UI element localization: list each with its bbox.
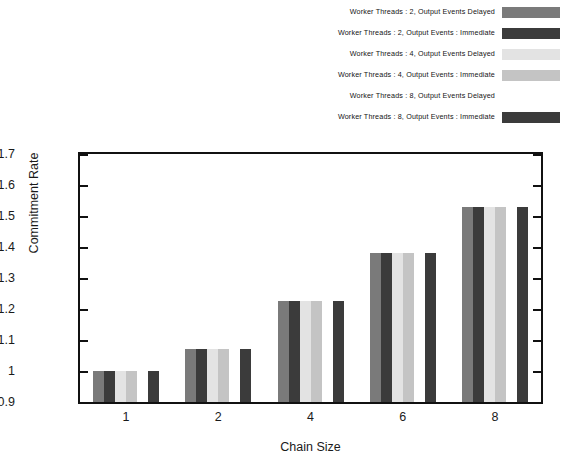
chart-legend: Worker Threads : 2, Output Events Delaye…	[322, 2, 560, 128]
y-axis-tick	[533, 247, 541, 249]
x-axis-tick-label: 4	[291, 410, 331, 424]
y-axis-tick	[533, 216, 541, 218]
y-axis-tick-label: 1.3	[0, 271, 15, 285]
bar	[403, 253, 414, 402]
y-axis-tick	[80, 340, 88, 342]
legend-swatch	[502, 28, 560, 39]
bar	[126, 371, 137, 402]
y-axis-tick	[533, 340, 541, 342]
y-axis-tick-label: 1.7	[0, 147, 15, 161]
y-axis-tick	[533, 154, 541, 156]
y-axis-tick-label: 1.1	[0, 333, 15, 347]
bar	[414, 253, 425, 402]
bar	[104, 371, 115, 402]
bar	[484, 207, 495, 402]
y-axis-tick	[533, 309, 541, 311]
y-axis-tick	[533, 371, 541, 373]
bar	[462, 207, 473, 402]
y-axis-tick	[80, 278, 88, 280]
legend-swatch	[502, 112, 560, 123]
bar	[311, 301, 322, 402]
x-axis-tick-label: 2	[198, 410, 238, 424]
bar-group	[93, 154, 159, 402]
y-axis-tick	[80, 247, 88, 249]
y-axis-tick	[80, 185, 88, 187]
bar-group	[462, 154, 528, 402]
bar	[506, 207, 517, 402]
y-axis-tick	[80, 154, 88, 156]
bar-group	[370, 154, 436, 402]
bar	[300, 301, 311, 402]
legend-label: Worker Threads : 2, Output Events : Imme…	[338, 29, 502, 36]
bar	[370, 253, 381, 402]
bar	[333, 301, 344, 402]
plot-inner	[80, 154, 541, 402]
bar	[473, 207, 484, 402]
x-axis-tick-label: 1	[106, 410, 146, 424]
bar	[148, 371, 159, 402]
bar	[185, 349, 196, 402]
y-axis-tick	[80, 216, 88, 218]
bar-chart-figure: Worker Threads : 2, Output Events Delaye…	[0, 0, 564, 468]
y-axis-tick	[533, 185, 541, 187]
bar	[115, 371, 126, 402]
legend-label: Worker Threads : 2, Output Events Delaye…	[350, 8, 502, 15]
legend-item: Worker Threads : 4, Output Events : Imme…	[322, 65, 560, 85]
x-axis-title: Chain Size	[78, 440, 543, 454]
y-axis-tick-label: 1.4	[0, 240, 15, 254]
bar	[93, 371, 104, 402]
bar	[425, 253, 436, 402]
legend-item: Worker Threads : 2, Output Events Delaye…	[322, 2, 560, 22]
bar	[278, 301, 289, 402]
bar	[229, 349, 240, 402]
y-axis-tick-label: 0.9	[0, 395, 15, 409]
legend-item: Worker Threads : 2, Output Events : Imme…	[322, 23, 560, 43]
legend-swatch	[502, 49, 560, 60]
bar	[207, 349, 218, 402]
bar	[392, 253, 403, 402]
legend-label: Worker Threads : 8, Output Events Delaye…	[350, 92, 502, 99]
bar	[218, 349, 229, 402]
bar	[495, 207, 506, 402]
bar-group	[278, 154, 344, 402]
legend-label: Worker Threads : 8, Output Events : Imme…	[338, 113, 502, 120]
legend-item: Worker Threads : 8, Output Events Delaye…	[322, 86, 560, 106]
y-axis-tick	[80, 402, 88, 404]
y-axis-title: Commitment Rate	[27, 113, 41, 293]
bar	[240, 349, 251, 402]
bar-group	[185, 154, 251, 402]
y-axis-tick-label: 1.6	[0, 178, 15, 192]
legend-swatch	[502, 91, 560, 102]
y-axis-tick-label: 1.2	[0, 302, 15, 316]
bar	[137, 371, 148, 402]
legend-swatch	[502, 70, 560, 81]
bar	[322, 301, 333, 402]
y-axis-tick-label: 1	[0, 364, 15, 378]
bar	[517, 207, 528, 402]
x-axis-tick-label: 8	[475, 410, 515, 424]
y-axis-tick	[533, 402, 541, 404]
legend-item: Worker Threads : 8, Output Events : Imme…	[322, 107, 560, 127]
plot-area	[78, 152, 543, 404]
bar	[196, 349, 207, 402]
legend-label: Worker Threads : 4, Output Events : Imme…	[338, 71, 502, 78]
y-axis-tick-label: 1.5	[0, 209, 15, 223]
y-axis-tick	[533, 278, 541, 280]
y-axis-tick	[80, 371, 88, 373]
y-axis-tick	[80, 309, 88, 311]
x-axis-tick-label: 6	[383, 410, 423, 424]
legend-item: Worker Threads : 4, Output Events Delaye…	[322, 44, 560, 64]
bar	[381, 253, 392, 402]
bar	[289, 301, 300, 402]
legend-swatch	[502, 7, 560, 18]
legend-label: Worker Threads : 4, Output Events Delaye…	[350, 50, 502, 57]
